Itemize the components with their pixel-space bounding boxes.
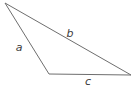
triangle-diagram: a b c xyxy=(0,0,134,88)
side-label-a: a xyxy=(16,42,23,53)
side-label-b: b xyxy=(67,28,74,39)
side-label-c: c xyxy=(85,76,91,87)
